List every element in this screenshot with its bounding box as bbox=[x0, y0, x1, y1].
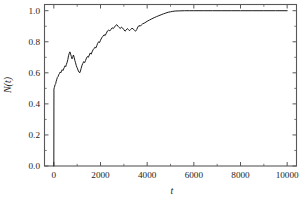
y-tick-label: 0.8 bbox=[29, 37, 41, 47]
y-axis-title: N(t) bbox=[2, 76, 14, 94]
x-tick-label: 0 bbox=[52, 170, 57, 180]
chart-figure: 0200040006000800010000 0.00.20.40.60.81.… bbox=[0, 0, 308, 203]
x-tick-label: 8000 bbox=[231, 170, 250, 180]
y-tick-label: 0.0 bbox=[29, 161, 41, 171]
y-tick-label: 0.2 bbox=[29, 130, 41, 140]
x-axis-title: t bbox=[171, 185, 174, 196]
y-tick-label: 0.6 bbox=[29, 68, 41, 78]
x-tick-label: 6000 bbox=[185, 170, 204, 180]
x-tick-label: 10000 bbox=[276, 170, 299, 180]
y-tick-label: 1.0 bbox=[29, 6, 41, 16]
line-chart: 0200040006000800010000 0.00.20.40.60.81.… bbox=[0, 0, 308, 203]
y-tick-label: 0.4 bbox=[29, 99, 41, 109]
x-tick-label: 2000 bbox=[91, 170, 110, 180]
x-tick-label: 4000 bbox=[138, 170, 157, 180]
